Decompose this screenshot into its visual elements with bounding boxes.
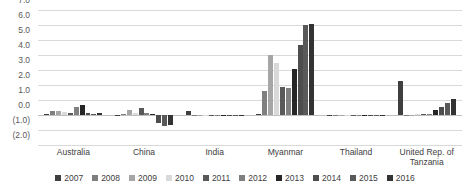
bar — [56, 111, 61, 115]
bar — [233, 115, 238, 116]
bar-group — [109, 10, 180, 145]
legend-swatch-icon — [203, 175, 209, 181]
bar-slot — [450, 10, 456, 145]
bar — [192, 115, 197, 116]
bars — [250, 10, 321, 145]
y-axis-tick-label: 3.0 — [0, 56, 30, 65]
bar — [274, 63, 279, 116]
y-axis-tick-label: 7.0 — [0, 0, 30, 4]
plot-area — [38, 10, 462, 145]
bar — [445, 103, 450, 115]
bar — [298, 45, 303, 116]
bar — [239, 115, 244, 116]
bar — [256, 114, 261, 115]
legend-label: 2010 — [175, 174, 194, 183]
bar — [127, 110, 132, 115]
bar-group — [391, 10, 462, 145]
legend-item[interactable]: 2008 — [92, 174, 120, 183]
bar — [115, 115, 120, 116]
y-axis-tick-label: 6.0 — [0, 11, 30, 20]
bar — [309, 24, 314, 116]
y-axis: 7.06.05.04.03.02.01.00.0(1.0)(2.0) — [0, 0, 34, 135]
x-axis-category-label: India — [179, 147, 250, 171]
legend-item[interactable]: 2010 — [166, 174, 194, 183]
legend-swatch-icon — [129, 175, 135, 181]
legend-label: 2007 — [64, 174, 83, 183]
bar — [351, 115, 356, 116]
bar — [221, 115, 226, 116]
bars — [179, 10, 250, 145]
bar — [227, 115, 232, 116]
legend-swatch-icon — [276, 175, 282, 181]
y-axis-tick-label: 0.0 — [0, 101, 30, 110]
bar — [410, 115, 415, 116]
legend-label: 2015 — [359, 174, 378, 183]
x-axis-category-labels: AustraliaChinaIndiaMyanmarThailandUnited… — [38, 147, 462, 171]
x-axis-category-label: Australia — [38, 147, 109, 171]
bar — [327, 115, 332, 116]
bar-groups — [38, 10, 462, 145]
legend-label: 2012 — [248, 174, 267, 183]
legend-swatch-icon — [166, 175, 172, 181]
bar — [398, 81, 403, 116]
bar — [286, 88, 291, 115]
legend-label: 2014 — [322, 174, 341, 183]
bar — [368, 115, 373, 116]
bar-group — [250, 10, 321, 145]
gridline — [38, 145, 462, 146]
bar — [380, 115, 385, 116]
bar — [150, 114, 155, 115]
bar — [44, 114, 49, 116]
bar — [156, 115, 161, 123]
legend-item[interactable]: 2016 — [387, 174, 415, 183]
bar — [144, 113, 149, 115]
legend-item[interactable]: 2009 — [129, 174, 157, 183]
bar-chart: 7.06.05.04.03.02.01.00.0(1.0)(2.0) Austr… — [0, 0, 470, 192]
bar — [268, 55, 273, 115]
y-axis-tick-label: (2.0) — [0, 131, 30, 140]
legend-item[interactable]: 2011 — [203, 174, 230, 183]
y-axis-tick-label: (1.0) — [0, 116, 30, 125]
legend-swatch-icon — [350, 175, 356, 181]
bar-group — [321, 10, 392, 145]
legend-swatch-icon — [239, 175, 245, 181]
legend-label: 2008 — [101, 174, 120, 183]
bar — [91, 114, 96, 116]
bars — [38, 10, 109, 145]
bar-slot — [97, 10, 103, 145]
legend-swatch-icon — [387, 175, 393, 181]
legend-swatch-icon — [313, 175, 319, 181]
bar — [357, 115, 362, 116]
bar-slot — [168, 10, 174, 145]
bar — [62, 112, 67, 115]
bars — [391, 10, 462, 145]
y-axis-tick-label: 5.0 — [0, 26, 30, 35]
y-axis-tick-label: 1.0 — [0, 86, 30, 95]
bar — [168, 115, 173, 125]
bar — [339, 115, 344, 116]
bar — [139, 108, 144, 115]
legend-item[interactable]: 2013 — [276, 174, 304, 183]
legend-swatch-icon — [55, 175, 61, 181]
legend-item[interactable]: 2012 — [239, 174, 267, 183]
bar — [203, 115, 208, 116]
legend-label: 2009 — [138, 174, 157, 183]
x-axis-category-label: China — [109, 147, 180, 171]
legend-item[interactable]: 2007 — [55, 174, 83, 183]
bar — [421, 114, 426, 115]
legend-item[interactable]: 2014 — [313, 174, 341, 183]
legend-label: 2013 — [285, 174, 304, 183]
y-axis-tick-label: 4.0 — [0, 41, 30, 50]
bar — [280, 87, 285, 116]
bar — [50, 111, 55, 116]
bar-slot — [309, 10, 315, 145]
x-axis-category-label: Thailand — [321, 147, 392, 171]
bar — [439, 107, 444, 115]
legend-label: 2011 — [212, 174, 230, 183]
legend-item[interactable]: 2015 — [350, 174, 378, 183]
bar — [162, 115, 167, 126]
bar — [404, 115, 409, 116]
y-axis-tick-label: 2.0 — [0, 71, 30, 80]
bar — [345, 115, 350, 116]
bar — [133, 113, 138, 115]
